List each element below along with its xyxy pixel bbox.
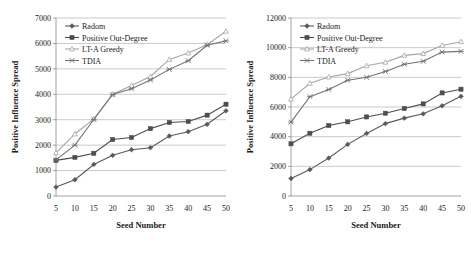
data-point-square-7 — [421, 102, 425, 106]
legend-marker-square — [300, 35, 314, 39]
xtick-label-5: 5 — [289, 204, 293, 213]
data-point-square-8 — [440, 91, 444, 95]
data-point-cross-4 — [364, 75, 370, 80]
legend-marker-diamond — [65, 24, 79, 29]
series-lt-a-greedy — [54, 29, 229, 155]
series-radom — [54, 108, 229, 189]
data-point-cross-7 — [420, 59, 426, 64]
series-line — [56, 104, 226, 160]
square-marker — [327, 123, 331, 127]
data-point-cross-6 — [167, 67, 173, 72]
xtick-label-30: 30 — [146, 204, 154, 213]
series-tdia — [53, 38, 229, 162]
data-point-diamond-0 — [289, 176, 294, 181]
ytick-label-7000: 7000 — [35, 14, 51, 23]
square-marker — [129, 135, 133, 139]
data-point-diamond-6 — [402, 116, 407, 121]
square-marker — [383, 111, 387, 115]
ytick-label-2000: 2000 — [270, 162, 286, 171]
data-point-square-legend — [70, 35, 74, 39]
data-point-square-3 — [111, 137, 115, 141]
data-point-diamond-8 — [440, 103, 445, 108]
data-point-diamond-7 — [421, 111, 426, 116]
legend-label: Positive Out-Degree — [317, 34, 383, 43]
legend-marker-triangle — [300, 46, 314, 51]
ytick-label-3000: 3000 — [35, 116, 51, 125]
diamond-marker — [305, 24, 310, 29]
xtick-label-10: 10 — [306, 204, 314, 213]
data-point-cross-8 — [439, 50, 445, 55]
series-positive-out-degree — [54, 102, 228, 162]
data-point-square-5 — [383, 111, 387, 115]
y-axis-title: Positive Influence Spread — [10, 61, 20, 154]
data-point-square-9 — [224, 102, 228, 106]
legend-marker-cross — [300, 58, 314, 63]
square-marker — [224, 102, 228, 106]
data-point-triangle-9 — [459, 39, 464, 44]
left-chart-svg: 0100020003000400050006000700051015202530… — [0, 0, 235, 253]
data-point-cross-3 — [345, 78, 351, 83]
data-point-diamond-5 — [383, 121, 388, 126]
right-chart-svg: 0200040006000800010000120005101520253035… — [235, 0, 470, 253]
diamond-marker — [459, 94, 464, 99]
diamond-marker — [110, 153, 115, 158]
diamond-marker — [70, 24, 75, 29]
diamond-marker — [440, 103, 445, 108]
xtick-label-40: 40 — [184, 204, 192, 213]
ytick-label-4000: 4000 — [270, 132, 286, 141]
x-axis-title: Seed Number — [351, 220, 401, 230]
diamond-marker — [54, 185, 59, 190]
data-point-cross-2 — [326, 87, 332, 92]
ytick-label-2000: 2000 — [35, 141, 51, 150]
square-marker — [421, 102, 425, 106]
data-point-square-4 — [129, 135, 133, 139]
square-marker — [346, 120, 350, 124]
series-positive-out-degree — [289, 87, 463, 146]
legend-item-lt-a-greedy: LT-A Greedy — [300, 45, 359, 54]
xtick-label-20: 20 — [109, 204, 117, 213]
legend-marker-triangle — [65, 46, 79, 51]
ytick-label-5000: 5000 — [35, 65, 51, 74]
data-point-diamond-3 — [110, 153, 115, 158]
xtick-label-45: 45 — [438, 204, 446, 213]
legend-item-positive-out-degree: Positive Out-Degree — [65, 34, 148, 43]
ytick-label-4000: 4000 — [35, 90, 51, 99]
data-point-cross-legend — [304, 58, 310, 63]
xtick-label-15: 15 — [90, 204, 98, 213]
x-axis-title: Seed Number — [116, 220, 166, 230]
xtick-label-50: 50 — [222, 204, 230, 213]
square-marker — [308, 131, 312, 135]
data-point-cross-1 — [307, 94, 313, 99]
data-point-square-7 — [186, 119, 190, 123]
legend-label: Radom — [82, 22, 106, 31]
data-point-square-1 — [308, 131, 312, 135]
legend-item-tdia: TDIA — [65, 57, 101, 66]
data-point-square-0 — [289, 142, 293, 146]
square-marker — [70, 35, 74, 39]
data-point-triangle-9 — [224, 29, 229, 34]
data-point-square-6 — [402, 106, 406, 110]
legend-item-radom: Radom — [65, 22, 106, 31]
triangle-marker — [459, 39, 464, 44]
square-marker — [440, 91, 444, 95]
xtick-label-25: 25 — [363, 204, 371, 213]
data-point-cross-7 — [185, 58, 191, 63]
square-marker — [289, 142, 293, 146]
legend-marker-square — [65, 35, 79, 39]
data-point-square-6 — [167, 120, 171, 124]
legend-label: LT-A Greedy — [82, 45, 124, 54]
data-point-cross-legend — [69, 58, 75, 63]
figure-root: 0100020003000400050006000700051015202530… — [0, 0, 471, 253]
ytick-label-6000: 6000 — [270, 103, 286, 112]
legend-label: Positive Out-Degree — [82, 34, 148, 43]
data-point-diamond-4 — [129, 147, 134, 152]
ytick-label-10000: 10000 — [266, 43, 286, 52]
data-point-cross-6 — [402, 62, 408, 67]
chart-panel-left: 0100020003000400050006000700051015202530… — [0, 0, 235, 253]
data-point-diamond-9 — [459, 94, 464, 99]
xtick-label-30: 30 — [381, 204, 389, 213]
diamond-marker — [129, 147, 134, 152]
xtick-label-20: 20 — [344, 204, 352, 213]
xtick-label-50: 50 — [457, 204, 465, 213]
legend-item-lt-a-greedy: LT-A Greedy — [65, 45, 124, 54]
